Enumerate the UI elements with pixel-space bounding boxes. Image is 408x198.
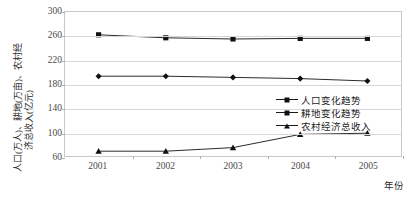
y-axis-title: 人口(万人)、耕地(万亩)、农村经 济总收入(亿元): [0, 0, 34, 198]
y-axis-tick-label: 220: [48, 55, 62, 65]
diamond-marker-icon: [285, 97, 290, 102]
gridline: [65, 134, 401, 135]
y-axis-tickmark: [62, 12, 65, 13]
series-data-point: [163, 73, 169, 79]
gridline: [65, 85, 401, 86]
legend-item: 人口变化趋势: [276, 93, 398, 106]
x-axis-tick-label: 2004: [291, 161, 310, 171]
y-axis-tick-label: 100: [48, 128, 62, 138]
legend-label: 耕地变化趋势: [301, 106, 361, 120]
x-axis-tick-label: 2005: [359, 161, 378, 171]
legend-swatch: [276, 107, 298, 118]
square-marker-icon: [285, 110, 290, 115]
x-axis-tickmark: [335, 156, 336, 159]
y-axis-tickmark: [62, 61, 65, 62]
x-axis-tick-labels: 20012002200320042005: [64, 161, 402, 177]
y-axis-tick-label: 260: [48, 30, 62, 40]
chart-legend: 人口变化趋势耕地变化趋势农村经济总收入: [276, 92, 398, 133]
x-axis-tickmark: [133, 156, 134, 159]
legend-item: 耕地变化趋势: [276, 106, 398, 119]
x-axis-tickmark: [200, 156, 201, 159]
legend-label: 人口变化趋势: [301, 93, 361, 107]
y-axis-tick-labels: 30026022018014010060: [30, 0, 62, 198]
legend-swatch: [276, 120, 298, 131]
x-axis-tick-label: 2001: [88, 161, 107, 171]
y-axis-tickmark: [62, 85, 65, 86]
x-axis-title: 年份: [384, 178, 404, 192]
gridline: [65, 61, 401, 62]
line-chart: 人口(万人)、耕地(万亩)、农村经 济总收入(亿元) 3002602201801…: [0, 0, 408, 198]
plot-area: [64, 11, 402, 157]
y-axis-tickmark: [62, 36, 65, 37]
x-axis-tick-label: 2003: [224, 161, 243, 171]
y-axis-tick-label: 300: [48, 6, 62, 16]
series-data-point: [230, 74, 236, 80]
gridline: [65, 36, 401, 37]
y-axis-tick-label: 60: [53, 152, 63, 162]
y-axis-tick-label: 180: [48, 79, 62, 89]
y-axis-tickmark: [62, 109, 65, 110]
y-axis-tickmark: [62, 158, 65, 159]
legend-swatch: [276, 94, 298, 105]
y-axis-tick-label: 140: [48, 103, 62, 113]
x-axis-tick-label: 2002: [156, 161, 175, 171]
x-axis-tickmark: [268, 156, 269, 159]
series-data-point: [96, 73, 102, 79]
triangle-marker-icon: [284, 123, 290, 128]
series-data-point: [364, 78, 370, 84]
x-axis-tickmark: [403, 156, 404, 159]
series-data-point: [297, 76, 303, 82]
legend-item: 农村经济总收入: [276, 119, 398, 132]
legend-label: 农村经济总收入: [301, 119, 371, 133]
y-axis-tickmark: [62, 134, 65, 135]
